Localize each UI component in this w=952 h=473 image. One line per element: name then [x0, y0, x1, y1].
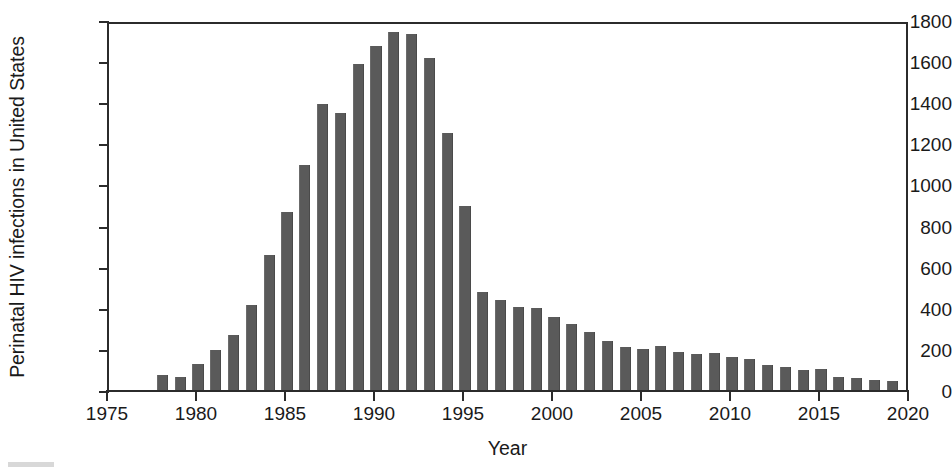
scan-artifact — [8, 462, 54, 467]
bar — [815, 369, 826, 390]
bar — [495, 300, 506, 390]
x-axis-tick-mark — [373, 390, 375, 401]
bar — [691, 354, 702, 390]
x-axis-tick-label: 2015 — [779, 404, 859, 423]
bar — [424, 58, 435, 390]
x-axis-tick-mark — [106, 390, 108, 401]
x-axis-tick-label: 1975 — [67, 404, 147, 423]
bar — [513, 307, 524, 390]
bar — [673, 352, 684, 390]
bar — [726, 357, 737, 390]
bar — [281, 212, 292, 390]
bar — [620, 347, 631, 390]
bar — [851, 378, 862, 390]
bar-series — [109, 24, 906, 390]
bar — [744, 359, 755, 390]
bar — [548, 317, 559, 390]
plot-area — [107, 22, 908, 392]
bar — [780, 367, 791, 390]
x-axis-tick-mark — [195, 390, 197, 401]
x-axis-tick-label: 1995 — [423, 404, 503, 423]
bar — [317, 104, 328, 390]
bar — [869, 380, 880, 390]
bar — [388, 32, 399, 390]
bar — [406, 34, 417, 390]
x-axis-tick-mark — [729, 390, 731, 401]
bar — [887, 381, 898, 390]
bar — [709, 353, 720, 390]
x-axis-tick-label: 2000 — [512, 404, 592, 423]
bar — [335, 113, 346, 391]
bar — [370, 46, 381, 390]
bar — [246, 305, 257, 390]
x-axis-tick-label: 2005 — [601, 404, 681, 423]
x-axis-tick-mark — [818, 390, 820, 401]
bar — [637, 349, 648, 390]
x-axis-tick-label: 2020 — [868, 404, 948, 423]
bar — [228, 335, 239, 391]
bar — [531, 308, 542, 390]
x-axis-title: Year — [107, 437, 908, 460]
bar — [175, 377, 186, 390]
bar — [299, 165, 310, 390]
bar — [210, 350, 221, 390]
x-axis-tick-mark — [907, 390, 909, 401]
bar — [459, 206, 470, 390]
x-axis-tick-mark — [640, 390, 642, 401]
x-axis-tick-mark — [284, 390, 286, 401]
bar — [762, 365, 773, 390]
perinatal-hiv-bar-chart: Perinatal HIV infections in United State… — [0, 0, 952, 473]
bar — [353, 64, 364, 390]
x-axis-tick-mark — [551, 390, 553, 401]
bar — [798, 370, 809, 390]
x-axis-tick-label: 2010 — [690, 404, 770, 423]
x-axis-tick-label: 1980 — [156, 404, 236, 423]
bar — [157, 375, 168, 390]
bar — [602, 341, 613, 390]
bar — [833, 377, 844, 390]
bar — [655, 346, 666, 390]
x-axis-tick-label: 1990 — [334, 404, 414, 423]
bar — [584, 332, 595, 390]
y-axis-title: Perinatal HIV infections in United State… — [4, 2, 30, 412]
bar — [192, 364, 203, 390]
x-axis-tick-label: 1985 — [245, 404, 325, 423]
bar — [566, 324, 577, 390]
bar — [264, 255, 275, 390]
bar — [477, 292, 488, 390]
x-axis-tick-mark — [462, 390, 464, 401]
bar — [442, 133, 453, 390]
